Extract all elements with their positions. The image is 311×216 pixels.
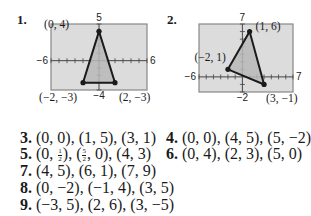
answer-number: 9. bbox=[20, 196, 32, 213]
axis-label-xmax: 7 bbox=[296, 71, 302, 82]
vertex-label: (3, −1) bbox=[266, 92, 298, 105]
answer-text-part: ), ( bbox=[63, 145, 82, 162]
answer-text: (0, 12), (52, 0), (4, 3) bbox=[36, 145, 151, 162]
answer-number: 5. bbox=[20, 145, 32, 162]
axis-label-ymax: 7 bbox=[240, 12, 246, 23]
answer-7: 7.(4, 5), (6, 1), (7, 9) bbox=[20, 162, 156, 180]
fraction: 12 bbox=[58, 148, 62, 163]
graphs-canvas: −665−4(0, 4)(−2, −3)(2, −3)−677−2(1, 6)(… bbox=[0, 0, 311, 110]
axis-label-xmin: −6 bbox=[37, 55, 49, 66]
answer-text: (−3, 5), (2, 6), (3, −5) bbox=[36, 196, 174, 213]
axis-label-ymin: −2 bbox=[237, 92, 249, 103]
axis-label-xmax: 6 bbox=[150, 55, 156, 66]
answer-5: 5.(0, 12), (52, 0), (4, 3) bbox=[20, 145, 151, 163]
answer-number: 3. bbox=[20, 129, 32, 146]
vertex-point bbox=[261, 82, 266, 87]
answer-6: 6.(0, 4), (2, 3), (5, 0) bbox=[166, 145, 302, 163]
vertex-label: (−2, 1) bbox=[195, 51, 227, 64]
vertex-point bbox=[80, 80, 85, 85]
answer-text-part: (0, bbox=[36, 145, 57, 162]
axis-label-ymax: 5 bbox=[96, 12, 102, 23]
axis-label-xmin: −6 bbox=[185, 71, 197, 82]
answer-number: 4. bbox=[166, 129, 178, 146]
answer-text: (0, −2), (−1, 4), (3, 5) bbox=[36, 179, 174, 196]
answer-text: (4, 5), (6, 1), (7, 9) bbox=[36, 162, 156, 179]
answer-9: 9.(−3, 5), (2, 6), (3, −5) bbox=[20, 196, 174, 214]
vertex-point bbox=[112, 80, 117, 85]
answer-number: 8. bbox=[20, 179, 32, 196]
answer-text: (0, 0), (1, 5), (3, 1) bbox=[36, 129, 156, 146]
fraction: 52 bbox=[82, 148, 86, 163]
answer-number: 6. bbox=[166, 145, 178, 162]
vertex-label: (0, 4) bbox=[44, 18, 69, 31]
vertex-label: (1, 6) bbox=[256, 20, 281, 33]
answer-text: (0, 0), (4, 5), (5, −2) bbox=[182, 129, 311, 146]
vertex-point bbox=[247, 29, 252, 34]
vertex-point bbox=[96, 29, 101, 34]
answer-8: 8.(0, −2), (−1, 4), (3, 5) bbox=[20, 179, 174, 197]
vertex-label: (−2, −3) bbox=[39, 91, 77, 104]
answer-text-part: , 0), (4, 3) bbox=[87, 145, 151, 162]
answer-text: (0, 4), (2, 3), (5, 0) bbox=[182, 145, 302, 162]
vertex-label: (2, −3) bbox=[119, 91, 151, 104]
answer-number: 7. bbox=[20, 162, 32, 179]
vertex-point bbox=[225, 67, 230, 72]
axis-label-ymin: −4 bbox=[93, 90, 105, 101]
